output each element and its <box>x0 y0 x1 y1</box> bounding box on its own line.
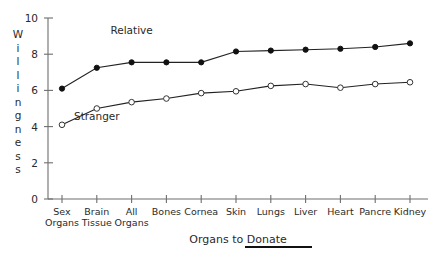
y-axis-title-char: i <box>17 42 20 54</box>
x-tick-label-line: Organs <box>45 217 79 228</box>
y-axis-title-char: i <box>17 82 20 94</box>
y-tick-label: 8 <box>31 48 38 60</box>
x-tick-label-line: Lungs <box>257 206 285 217</box>
x-tick-label-line: Heart <box>327 206 354 217</box>
x-tick-label-line: Sex <box>53 206 71 217</box>
y-tick-label: 6 <box>31 84 38 96</box>
y-axis-title-char: W <box>13 28 24 40</box>
x-tick-label: Skin <box>226 206 246 217</box>
y-tick-label: 10 <box>25 12 38 24</box>
data-point-relative <box>164 60 169 65</box>
x-tick-label-line: Organs <box>115 217 149 228</box>
series-annotation: Stranger <box>74 110 120 122</box>
data-point-relative <box>59 86 64 91</box>
data-point-relative <box>268 48 273 53</box>
y-axis-title-char: l <box>17 69 20 81</box>
data-point-stranger <box>164 96 170 102</box>
data-point-stranger <box>233 89 239 95</box>
y-axis-title-char: n <box>15 96 22 108</box>
y-tick-label: 2 <box>31 157 38 169</box>
x-tick-label-line: All <box>126 206 138 217</box>
x-tick-label: Pancre <box>359 206 391 217</box>
chart-container: Willingness 0246810 SexOrgansBrainTissue… <box>0 0 434 254</box>
data-point-stranger <box>407 79 413 85</box>
data-point-relative <box>407 41 412 46</box>
x-tick-label: AllOrgans <box>115 206 149 228</box>
data-point-relative <box>94 65 99 70</box>
data-point-stranger <box>268 83 274 89</box>
x-tick-label-line: Brain <box>84 206 109 217</box>
x-axis-title: Organs to Donate <box>189 233 287 246</box>
x-tick-label-line: Skin <box>226 206 246 217</box>
x-tick-label-line: Liver <box>294 206 317 217</box>
x-tick-label-line: Bones <box>152 206 181 217</box>
series-annotation: Relative <box>110 24 152 36</box>
data-point-relative <box>373 44 378 49</box>
y-axis-title-char: l <box>17 55 20 67</box>
data-point-relative <box>199 60 204 65</box>
data-point-relative <box>233 49 238 54</box>
line-chart: Willingness 0246810 SexOrgansBrainTissue… <box>0 0 434 254</box>
y-axis-title-char: e <box>15 136 21 148</box>
data-point-stranger <box>198 90 204 96</box>
x-tick-label: Kidney <box>394 206 427 217</box>
x-tick-label-line: Cornea <box>184 206 218 217</box>
x-tick-label: Lungs <box>257 206 285 217</box>
data-point-relative <box>129 60 134 65</box>
x-axis-category-labels: SexOrgansBrainTissueAllOrgansBonesCornea… <box>45 206 427 228</box>
y-tick-label: 4 <box>31 121 38 133</box>
data-point-stranger <box>372 81 378 87</box>
x-tick-label-line: Tissue <box>81 217 112 228</box>
y-axis-tick-labels: 0246810 <box>25 12 39 205</box>
x-tick-label: BrainTissue <box>81 206 112 228</box>
data-point-relative <box>338 46 343 51</box>
data-point-stranger <box>338 85 344 91</box>
x-tick-label-line: Pancre <box>359 206 391 217</box>
y-axis-title-char: n <box>15 123 22 135</box>
data-point-stranger <box>129 99 135 105</box>
y-tick-label: 0 <box>31 193 38 205</box>
x-tick-label-line: Kidney <box>394 206 427 217</box>
y-axis-title-char: s <box>15 150 20 162</box>
x-tick-label: SexOrgans <box>45 206 79 228</box>
data-point-relative <box>303 47 308 52</box>
x-tick-label: Liver <box>294 206 317 217</box>
y-axis-title-char: s <box>15 163 20 175</box>
data-point-stranger <box>59 122 65 128</box>
x-tick-label: Cornea <box>184 206 218 217</box>
x-tick-label: Heart <box>327 206 354 217</box>
series-annotations: RelativeStranger <box>74 24 153 122</box>
y-axis-title: Willingness <box>13 28 24 175</box>
x-tick-label: Bones <box>152 206 181 217</box>
data-point-stranger <box>303 81 309 87</box>
y-axis-title-char: g <box>15 109 22 121</box>
